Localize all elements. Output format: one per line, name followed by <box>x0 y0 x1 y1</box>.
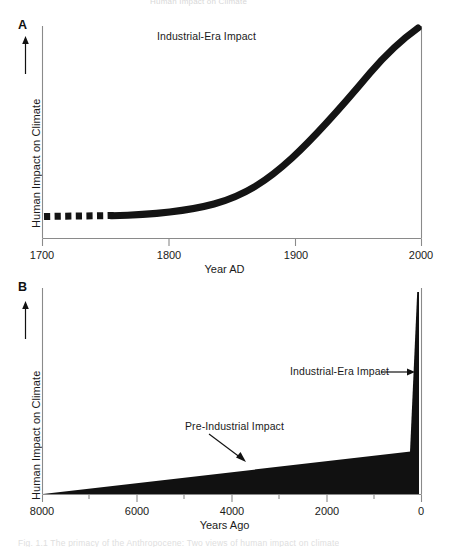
panel-a-xtick-1900: 1900 <box>284 249 308 261</box>
panel-a-plot <box>0 0 449 272</box>
panel-b-industrial-spike-area <box>410 292 419 494</box>
panel-b-x-ticks <box>43 495 422 503</box>
panel-b-pre-industrial-arrow <box>209 434 246 462</box>
panel-b: B Human Impact on Climate Industrial-Era… <box>0 272 449 546</box>
panel-b-x-axis-label: Years Ago <box>0 519 449 531</box>
panel-b-xtick-4000: 4000 <box>220 505 244 517</box>
panel-b-xtick-8000: 8000 <box>30 505 54 517</box>
panel-b-xtick-0: 0 <box>418 505 424 517</box>
panel-a: A Human Impact on Climate Industrial-Era… <box>0 0 449 272</box>
panel-b-industrial-era-arrow <box>381 369 415 376</box>
panel-b-preindustrial-area <box>43 451 415 494</box>
panel-b-xtick-2000: 2000 <box>315 505 339 517</box>
panel-b-xtick-6000: 6000 <box>125 505 149 517</box>
panel-a-xtick-2000: 2000 <box>409 249 433 261</box>
panel-a-curve-dashed-segment <box>44 216 114 217</box>
panel-a-x-ticks <box>43 239 422 247</box>
cut-off-caption-text: Fig. 1.1 The primacy of the Anthropocene… <box>18 538 339 547</box>
panel-a-xtick-1700: 1700 <box>30 249 54 261</box>
panel-a-xtick-1800: 1800 <box>157 249 181 261</box>
panel-a-curve-solid-segment <box>112 28 418 216</box>
